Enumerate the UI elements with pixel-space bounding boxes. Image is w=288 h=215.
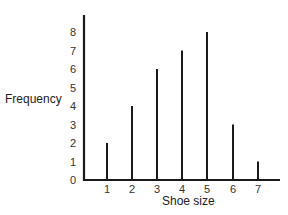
y-tick-label: 0 [70,174,76,186]
x-tick-label: 7 [255,183,261,195]
x-tick-label: 2 [129,183,135,195]
x-tick-label: 6 [230,183,236,195]
y-tick-label: 8 [70,26,76,38]
bars [107,32,258,180]
y-tick-label: 2 [70,137,76,149]
y-axis-ticks: 012345678 [70,26,76,186]
x-tick-label: 3 [154,183,160,195]
y-tick-label: 4 [70,100,76,112]
y-tick-label: 7 [70,45,76,57]
y-tick-label: 6 [70,63,76,75]
x-tick-label: 1 [104,183,110,195]
stick-chart: 012345678 1234567 Frequency Shoe size [0,0,288,215]
y-axis-label: Frequency [5,92,62,106]
y-tick-label: 1 [70,156,76,168]
x-axis-label: Shoe size [162,194,215,208]
y-tick-label: 5 [70,82,76,94]
y-tick-label: 3 [70,119,76,131]
